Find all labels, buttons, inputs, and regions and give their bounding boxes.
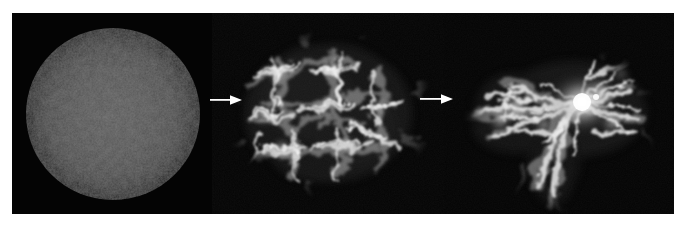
collapsed-core-image — [444, 13, 674, 214]
turbulent-filaments-image — [212, 13, 444, 214]
uniform-sphere-image — [12, 13, 212, 214]
uniform-sphere-panel — [12, 13, 212, 214]
turbulent-filaments-panel — [212, 13, 444, 214]
figure-container — [0, 0, 686, 228]
collapsed-core-panel — [444, 13, 674, 214]
figure-canvas — [12, 13, 674, 214]
